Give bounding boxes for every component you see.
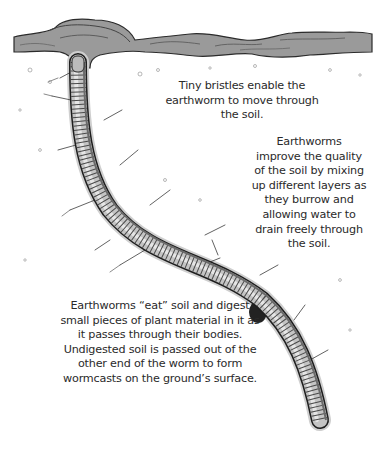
earthworm-illustration: Tiny bristles enable the earthworm to mo…: [0, 0, 388, 458]
caption-soil-improvement: Earthworms improve the quality of the so…: [232, 135, 386, 252]
caption-line: Tiny bristles enable the: [148, 79, 336, 94]
caption-line: wormcasts on the ground’s surface.: [40, 372, 280, 387]
caption-line: the soil.: [148, 108, 336, 123]
caption-line: Undigested soil is passed out of the: [40, 343, 280, 358]
worm-head-at-surface: [72, 56, 84, 72]
caption-bristles: Tiny bristles enable the earthworm to mo…: [148, 79, 336, 123]
caption-line: drain freely through: [232, 223, 386, 238]
caption-line: of the soil by mixing: [232, 164, 386, 179]
caption-line: earthworm to move through: [148, 94, 336, 109]
caption-line: up different layers as: [232, 179, 386, 194]
caption-line: they burrow and: [232, 193, 386, 208]
caption-line: small pieces of plant material in it as: [40, 314, 280, 329]
caption-line: it passes through their bodies.: [40, 328, 280, 343]
caption-line: Earthworms “eat” soil and digest: [40, 299, 280, 314]
caption-line: Earthworms: [232, 135, 386, 150]
caption-line: the soil.: [232, 237, 386, 252]
caption-eating: Earthworms “eat” soil and digest small p…: [40, 299, 280, 387]
caption-line: other end of the worm to form: [40, 357, 280, 372]
caption-line: improve the quality: [232, 150, 386, 165]
caption-line: allowing water to: [232, 208, 386, 223]
